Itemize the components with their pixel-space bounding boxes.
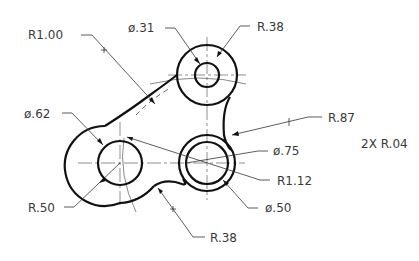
dim-r112: R1.12 [277,174,312,188]
left-boss-outer-arc [65,126,154,206]
dim-d050: ø.50 [265,201,291,215]
dim-d031: ø.31 [128,21,154,35]
dim-d075: ø.75 [273,144,299,158]
r038-blend-arc [154,179,185,186]
dim-d062: ø.62 [24,107,50,121]
dim-r038-bottom: R.38 [210,231,237,245]
dim-r087: R.87 [328,111,355,125]
part-outline [65,45,237,206]
dim-r050: R.50 [28,201,55,215]
cad-drawing: R1.00 ø.31 R.38 ø.62 R.87 2X R.04 ø.75 R… [0,0,419,261]
dim-r038-top: R.38 [257,20,284,34]
r100-blend-arc [105,75,177,126]
dim-2x-r004: 2X R.04 [361,137,408,151]
dim-r100: R1.00 [28,28,63,42]
